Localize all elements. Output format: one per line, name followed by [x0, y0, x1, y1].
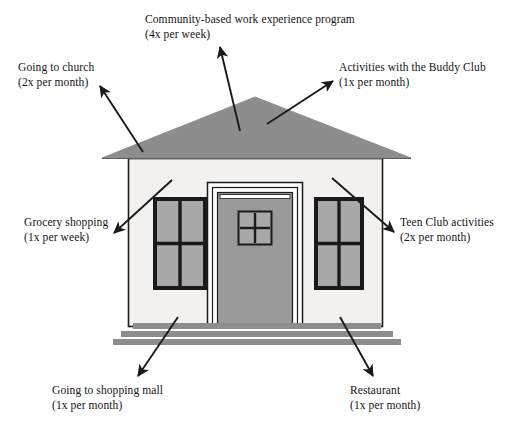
callout-teen-line1: Teen Club activities: [400, 216, 494, 228]
arrow-church: [100, 86, 143, 152]
front-steps: [113, 323, 401, 345]
callout-church-line1: Going to church: [18, 61, 94, 73]
callout-mall-line1: Going to shopping mall: [52, 384, 163, 396]
callout-grocery-line1: Grocery shopping: [24, 216, 108, 228]
house-group: [102, 97, 411, 345]
callout-church: Going to church (2x per month): [18, 60, 94, 90]
callout-buddy-line1: Activities with the Buddy Club: [339, 61, 486, 73]
front-door: [208, 183, 303, 327]
callout-restaurant: Restaurant (1x per month): [350, 383, 420, 413]
callout-work-experience: Community-based work experience program …: [145, 12, 355, 42]
roof: [102, 97, 411, 158]
callout-restaurant-line1: Restaurant: [350, 384, 400, 396]
callout-work-line2: (4x per week): [145, 27, 355, 42]
callout-grocery-shopping: Grocery shopping (1x per week): [24, 215, 108, 245]
left-window: [155, 199, 205, 288]
callout-mall-line2: (1x per month): [52, 398, 163, 413]
callout-buddy-line2: (1x per month): [339, 75, 486, 90]
callout-work-line1: Community-based work experience program: [145, 13, 355, 25]
right-window: [316, 199, 362, 288]
callout-restaurant-line2: (1x per month): [350, 398, 420, 413]
callout-church-line2: (2x per month): [18, 75, 94, 90]
callout-buddy-club: Activities with the Buddy Club (1x per m…: [339, 60, 486, 90]
diagram-canvas: Community-based work experience program …: [0, 0, 515, 433]
callout-grocery-line2: (1x per week): [24, 230, 108, 245]
door-window: [239, 212, 272, 245]
callout-teen-club: Teen Club activities (2x per month): [400, 215, 494, 245]
callout-teen-line2: (2x per month): [400, 230, 494, 245]
callout-shopping-mall: Going to shopping mall (1x per month): [52, 383, 163, 413]
